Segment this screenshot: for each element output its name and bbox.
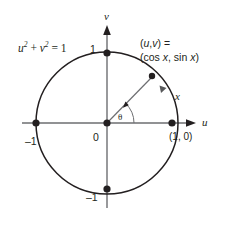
origin-label: 0 (93, 132, 99, 143)
point-1-0-label: (1, 0) (169, 132, 192, 142)
param-close-equals: ) = (158, 37, 171, 49)
point-neg1-0 (32, 119, 39, 126)
circle-equation-label: u2 + v2 = 1 (18, 41, 67, 54)
diagram-canvas (0, 0, 225, 225)
v-axis-label: v (104, 11, 109, 22)
equation-plus: + (28, 42, 40, 54)
arc-length-label: x (175, 91, 180, 102)
param-cos-open: (cos (140, 51, 163, 63)
u-axis-label: u (202, 117, 208, 128)
tick-label-v-negative-one: –1 (86, 192, 98, 203)
parametrization-line-1: (u,v) = (140, 38, 170, 49)
unit-circle-figure: u2 + v2 = 1 (u,v) = (cos x, sin x) v u 1… (0, 0, 225, 225)
point-origin (103, 119, 110, 126)
param-sin-mid: , sin (168, 51, 190, 63)
direction-arrowhead-icon (160, 86, 167, 94)
point-0-1 (103, 49, 110, 56)
param-close-paren: ) (195, 51, 199, 63)
equation-equals-one: = 1 (49, 42, 67, 54)
theta-arc (123, 102, 134, 124)
tick-label-v-positive-one: 1 (90, 44, 96, 55)
angle-theta-label: θ (118, 113, 122, 122)
parametrization-line-2: (cos x, sin x) (140, 52, 199, 63)
point-1-0 (168, 119, 175, 126)
radius-segment (107, 77, 152, 123)
point-0-neg1 (103, 185, 110, 192)
tick-label-u-negative-one: –1 (25, 136, 37, 147)
point-cosx-sinx (149, 73, 155, 79)
